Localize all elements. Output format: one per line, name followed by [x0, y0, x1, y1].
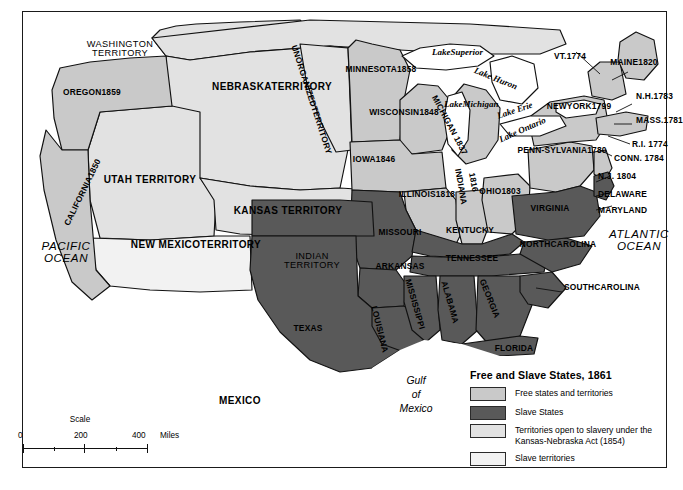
label-pacific-ocean: PACIFIC OCEAN	[12, 240, 120, 264]
legend-label-kansas-nebraska: Territories open to slavery under the Ka…	[515, 424, 660, 447]
label-tennessee: TENNESSEE	[446, 254, 499, 263]
label-new-york: NEWYORK1799	[547, 102, 612, 111]
label-oregon: OREGON1859	[63, 88, 121, 97]
label-iowa: IOWA1846	[353, 155, 396, 164]
label-delaware: DELAWARE	[598, 190, 647, 199]
legend-item-slave-territories: Slave territories	[470, 452, 660, 466]
label-lake-superior: LakeSuperior	[432, 48, 483, 57]
label-texas: TEXAS	[294, 324, 323, 333]
scale-unit: Miles	[160, 431, 179, 440]
map-legend: Free and Slave States, 1861 Free states …	[470, 369, 660, 470]
legend-label-slave-states: Slave States	[515, 406, 563, 418]
scale-zero: 0	[18, 431, 23, 440]
label-maine: MAINE1820	[610, 58, 657, 67]
scale-ruler	[18, 444, 168, 453]
shape-south-carolina	[520, 272, 566, 308]
label-north-carolina: NORTHCAROLINA	[520, 240, 597, 249]
label-massachusetts: MASS.1781	[636, 116, 683, 125]
label-vermont: VT.1774	[554, 52, 586, 61]
legend-label-slave-territories: Slave territories	[515, 452, 575, 464]
label-utah-territory: UTAH TERRITORY	[104, 175, 197, 185]
label-new-jersey: N.J. 1804	[598, 172, 636, 181]
legend-title: Free and Slave States, 1861	[470, 369, 660, 381]
label-washington-territory: WASHINGTON TERRITORY	[87, 40, 153, 59]
shape-utah-territory	[88, 106, 216, 240]
scale-bar: Scale 0 200 400 Miles	[18, 415, 168, 453]
legend-swatch-kansas-nebraska	[470, 424, 506, 438]
scale-max: 400	[132, 431, 146, 440]
label-virginia: VIRGINIA	[531, 204, 570, 213]
legend-swatch-slave-territories	[470, 452, 506, 466]
shape-maine	[618, 32, 658, 80]
label-gulf-of-mexico: Gulf of Mexico	[380, 374, 452, 416]
label-maryland: MARYLAND	[598, 206, 647, 215]
label-south-carolina: SOUTHCAROLINA	[564, 283, 640, 292]
label-mexico: MEXICO	[219, 396, 261, 406]
scale-numbers: 0 200 400 Miles	[18, 431, 168, 443]
label-atlantic-ocean: ATLANTIC OCEAN	[598, 228, 680, 252]
label-indiana-year: 1816	[468, 172, 480, 193]
label-kentucky: KENTUCKY	[446, 226, 494, 235]
label-rhode-island: R.I. 1774	[632, 140, 668, 149]
legend-item-slave-states: Slave States	[470, 406, 660, 420]
label-illinois: ILLINOIS1818	[399, 190, 455, 199]
label-missouri: MISSOURI	[378, 228, 421, 237]
legend-item-free-states: Free states and territories	[470, 387, 660, 401]
label-kansas-territory: KANSAS TERRITORY	[234, 206, 343, 216]
label-arkansas: ARKANSAS	[375, 262, 424, 271]
label-new-hampshire: N.H.1783	[636, 92, 673, 101]
label-minnesota: MINNESOTA1858	[346, 65, 417, 74]
label-lake-michigan: LakeMichigan	[444, 100, 499, 109]
legend-swatch-free-states	[470, 387, 506, 401]
legend-swatch-slave-states	[470, 406, 506, 420]
legend-item-kansas-nebraska: Territories open to slavery under the Ka…	[470, 424, 660, 447]
label-ohio: OHIO1803	[479, 187, 521, 196]
legend-label-free-states: Free states and territories	[515, 387, 613, 399]
label-indian-territory: INDIANTERRITORY	[284, 252, 340, 271]
scale-mid: 200	[74, 431, 88, 440]
label-wisconsin: WISCONSIN1848	[369, 108, 439, 117]
label-new-mexico-territory: NEW MEXICOTERRITORY	[131, 240, 261, 250]
label-pennsylvania: PENN-SYLVANIA1780	[517, 146, 606, 155]
label-connecticut: CONN. 1784	[614, 154, 664, 163]
label-florida: FLORIDA	[495, 344, 534, 353]
scale-title: Scale	[30, 415, 130, 424]
